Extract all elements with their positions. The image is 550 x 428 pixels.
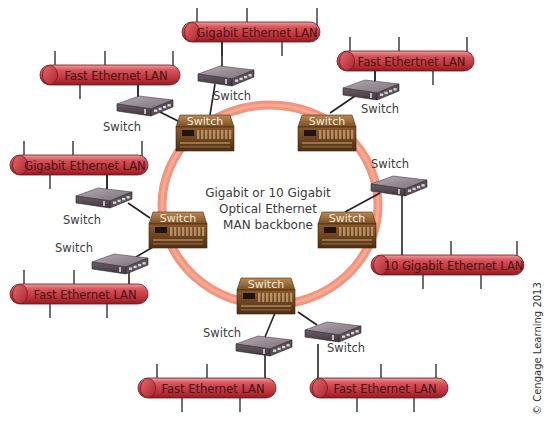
core-switch-slot — [278, 293, 280, 302]
core-switch-top-left: Switch — [176, 115, 234, 151]
core-switch-slot — [209, 130, 211, 139]
lan-label: Gigabit Ethernet LAN — [24, 159, 145, 173]
switch-port — [129, 268, 132, 270]
lan-bottom-left: Fast Ethernet LAN — [138, 364, 276, 412]
switch-port — [159, 108, 162, 110]
switch-led — [332, 335, 334, 340]
switch-port — [154, 110, 157, 112]
switch-port — [417, 186, 420, 188]
core-switch-rail — [180, 146, 230, 148]
core-switch-slot — [347, 227, 349, 236]
core-switch-slot — [359, 227, 361, 236]
switch-port — [413, 188, 416, 190]
core-switch-slot — [343, 227, 345, 236]
core-switch-label: Switch — [248, 278, 284, 291]
switch-port — [389, 90, 392, 92]
core-switch-slot — [347, 130, 349, 139]
core-switch-rail — [241, 309, 291, 311]
core-switch-slot — [274, 293, 276, 302]
core-switch-rail — [302, 142, 352, 144]
edge-switch-left-upper: Switch — [63, 188, 132, 227]
core-switch-label: Switch — [329, 212, 365, 225]
switch-port — [134, 266, 137, 268]
core-switch-slot — [194, 227, 196, 236]
switch-port — [408, 190, 411, 192]
core-switch-slot — [178, 227, 180, 236]
edge-switch-label: Switch — [63, 213, 101, 227]
edge-switch-label: Switch — [103, 120, 141, 134]
core-switch-top-right: Switch — [298, 115, 356, 151]
edge-switch-top-left: Switch — [103, 96, 173, 134]
edge-switch-label: Switch — [327, 341, 365, 355]
switch-port — [342, 336, 345, 338]
switch-led — [370, 93, 372, 98]
switch-port — [249, 74, 252, 76]
lan-right: 10 Gigabit Ethernet LAN — [371, 241, 524, 289]
core-switch-slot — [225, 130, 227, 139]
edge-switch-label: Switch — [203, 326, 241, 340]
switch-port — [273, 350, 276, 352]
edge-switch-label: Switch — [371, 157, 409, 171]
copyright-notice: © Cengage Learning 2013 — [532, 282, 543, 415]
core-switch-rail — [241, 305, 291, 307]
edge-switch-top: Switch — [198, 66, 254, 103]
switch-port — [347, 334, 350, 336]
core-switch-slot — [170, 227, 172, 236]
core-switch-slot — [182, 227, 184, 236]
core-switch-slot — [174, 227, 176, 236]
core-switch-slot — [221, 130, 223, 139]
edge-switch-right: Switch — [371, 157, 427, 196]
lan-tube-cap — [340, 52, 355, 71]
edge-switch-left-lower: Switch — [55, 241, 148, 274]
edge-switch-label: Switch — [361, 102, 399, 116]
core-switch-label: Switch — [309, 115, 345, 128]
lan-top-right: Fast Ethertnet LAN — [337, 37, 474, 85]
core-switch-label: Switch — [160, 212, 196, 225]
core-switch-left: Switch — [149, 212, 207, 248]
lan-tube-cap — [313, 379, 328, 398]
core-switch-slot — [319, 130, 321, 139]
switch-port — [127, 196, 130, 198]
core-switch-slot — [186, 227, 188, 236]
core-switch-display — [155, 227, 167, 233]
backbone-label: Gigabit or 10 Gigabit Optical Ethernet M… — [205, 186, 331, 232]
switch-led — [144, 109, 146, 114]
lan-top: Gigabit Ethernet LAN — [182, 8, 320, 56]
lan-tube-cap — [141, 379, 156, 398]
lan-label: Fast Ethernet LAN — [33, 288, 136, 302]
core-switch-rail — [322, 239, 372, 241]
switch-port — [422, 184, 425, 186]
core-switch-slot — [355, 227, 357, 236]
switch-port — [118, 200, 121, 202]
core-switch-slot — [229, 130, 231, 139]
switch-port — [244, 76, 247, 78]
core-switch-slot — [266, 293, 268, 302]
core-switch-label: Switch — [187, 115, 223, 128]
switch-port — [122, 198, 125, 200]
core-switch-slot — [213, 130, 215, 139]
core-switch-rail — [322, 243, 372, 245]
lan-tube-cap — [13, 285, 28, 304]
core-switch-display — [182, 130, 194, 136]
core-switch-slot — [339, 227, 341, 236]
core-switch-rail — [153, 239, 203, 241]
switch-port — [282, 346, 285, 348]
core-switch-slot — [331, 130, 333, 139]
core-switch-slot — [262, 293, 264, 302]
switch-port — [356, 330, 359, 332]
core-switch-slot — [205, 130, 207, 139]
core-switch-display — [243, 293, 255, 299]
core-switch-right: Switch — [318, 212, 376, 248]
backbone-label-line-2: Optical Ethernet — [219, 202, 317, 216]
core-switch-slot — [282, 293, 284, 302]
backbone-label-line-3: MAN backbone — [223, 218, 313, 232]
edge-switch-bottom-right: Switch — [305, 322, 365, 355]
core-switch-slot — [343, 130, 345, 139]
switch-port — [143, 262, 146, 264]
core-switch-slot — [197, 130, 199, 139]
core-switch-slot — [198, 227, 200, 236]
switch-port — [351, 332, 354, 334]
core-switch-slot — [323, 130, 325, 139]
switch-port — [235, 80, 238, 82]
core-switch-slot — [217, 130, 219, 139]
